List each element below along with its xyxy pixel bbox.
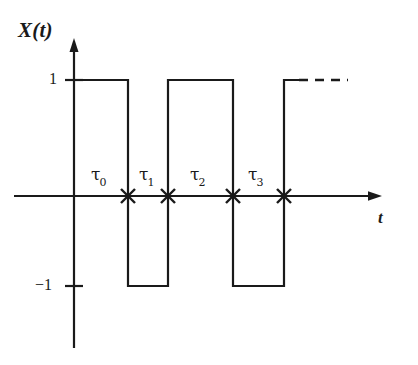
tau-label-1: τ1 — [139, 166, 155, 186]
y-axis — [70, 38, 79, 348]
tau-label-3: τ3 — [248, 166, 264, 186]
tau-label-0: τ0 — [91, 166, 107, 186]
y-axis-label: X(t) — [18, 20, 53, 41]
tau-subscript-2: 2 — [198, 176, 205, 189]
x-axis-label: t — [378, 209, 383, 226]
tau-subscript-3: 3 — [256, 176, 263, 189]
tau-label-2: τ2 — [190, 166, 206, 186]
y-tick-label-positive-one: 1 — [49, 71, 57, 87]
tau-subscript-0: 0 — [99, 176, 106, 189]
waveform-path — [74, 80, 299, 286]
y-tick-label-negative-one: −1 — [35, 277, 52, 293]
random-telegraph-signal-figure: X(t) t 1 −1 τ0 τ1 τ2 τ3 — [0, 0, 418, 365]
plot-canvas — [0, 0, 418, 365]
x-axis — [14, 191, 382, 201]
tau-subscript-1: 1 — [147, 176, 154, 189]
